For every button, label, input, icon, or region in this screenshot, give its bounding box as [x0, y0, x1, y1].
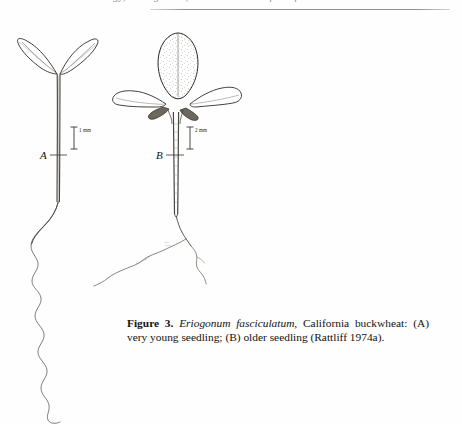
seedling-a-stem	[57, 74, 60, 202]
document-page: Ecology, Management, and Restoration of …	[0, 0, 462, 424]
seedling-b-panel-label: B	[156, 149, 184, 161]
seedling-b-true-leaf	[158, 33, 198, 99]
header-rule	[150, 9, 450, 10]
seedling-a-group: 1 mm A	[17, 39, 98, 424]
root-annotation-smudge	[164, 242, 171, 246]
seedling-a-cotyledon-right	[60, 39, 98, 74]
page-header: Ecology, Management, and Restoration of …	[0, 0, 462, 12]
seedling-b-root-system	[94, 216, 206, 286]
seedling-b-cotyledon-left	[113, 91, 166, 107]
svg-text:A: A	[39, 149, 47, 161]
figure-caption: Figure 3. Eriogonum fasciculatum, Califo…	[127, 316, 429, 344]
running-header-text: Ecology, Management, and Restoration of …	[0, 0, 462, 2]
seedling-a-panel-label: A	[39, 149, 67, 161]
species-name: Eriogonum fasciculatum,	[179, 317, 297, 329]
seedling-b-stem	[173, 112, 178, 217]
seedling-b-cotyledon-right	[190, 87, 242, 107]
figure-number: Figure 3.	[127, 317, 173, 329]
seedling-a-scale-bar: 1 mm	[71, 127, 91, 149]
seedling-b-group: 2 mm B	[94, 33, 242, 286]
figure-illustration: 1 mm A	[0, 12, 462, 424]
seedling-a-scale-label: 1 mm	[79, 127, 91, 133]
seedling-b-scale-label: 2 mm	[195, 127, 207, 133]
seedling-a-cotyledon-left	[17, 39, 57, 74]
seedling-a-taproot	[31, 202, 60, 423]
seedling-b-scale-bar: 2 mm	[187, 127, 207, 149]
svg-text:B: B	[156, 149, 163, 161]
